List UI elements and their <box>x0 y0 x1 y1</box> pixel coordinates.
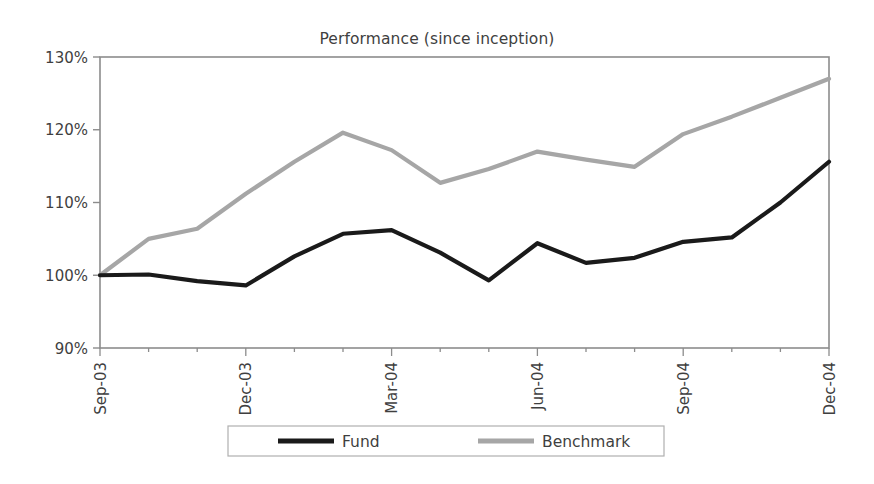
x-axis-tick-label: Mar-04 <box>383 362 401 414</box>
x-axis: Sep-03Dec-03Mar-04Jun-04Sep-04Dec-04 <box>92 348 839 416</box>
y-axis: 90%100%110%120%130% <box>45 49 100 358</box>
y-axis-tick-label: 110% <box>45 194 88 212</box>
x-axis-tick-label: Dec-03 <box>237 362 255 416</box>
y-axis-tick-label: 130% <box>45 49 88 67</box>
chart-container: Performance (since inception) 90%100%110… <box>0 0 874 484</box>
x-axis-tick-label: Jun-04 <box>529 362 547 411</box>
x-axis-tick-label: Dec-04 <box>821 362 839 416</box>
series-layer <box>100 79 829 286</box>
legend-label-fund[interactable]: Fund <box>342 433 380 451</box>
y-axis-tick-label: 100% <box>45 267 88 285</box>
series-line-benchmark <box>100 79 829 275</box>
x-axis-tick-label: Sep-04 <box>675 362 693 415</box>
legend-label-benchmark[interactable]: Benchmark <box>542 433 630 451</box>
y-axis-tick-label: 120% <box>45 121 88 139</box>
plot-frame <box>100 57 829 348</box>
chart-legend: FundBenchmark <box>228 426 664 456</box>
chart-plot-area: 90%100%110%120%130% Sep-03Dec-03Mar-04Ju… <box>0 0 874 484</box>
x-axis-tick-label: Sep-03 <box>92 362 110 415</box>
y-axis-tick-label: 90% <box>55 340 88 358</box>
plot-frame-rect <box>100 57 829 348</box>
series-line-fund <box>100 162 829 286</box>
